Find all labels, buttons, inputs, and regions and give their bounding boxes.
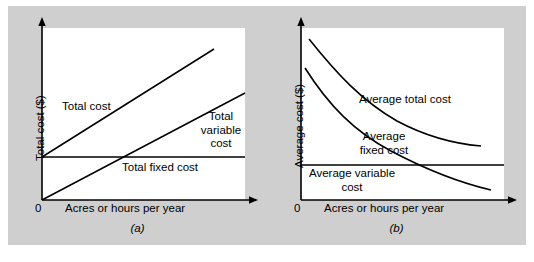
average-fixed-cost-label-line2: fixed cost xyxy=(344,144,424,158)
average-variable-cost-label-line1: Average variable xyxy=(304,167,400,181)
average-variable-cost-label-line2: cost xyxy=(304,181,400,195)
panel-b: Average cost ($) 0 Acres or hours per ye… xyxy=(267,6,526,245)
average-fixed-cost-label-line1: Average xyxy=(344,130,424,144)
panel-a-origin-label: 0 xyxy=(35,202,41,214)
panel-a-x-axis-label: Acres or hours per year xyxy=(65,202,185,214)
panel-a-y-axis-label: Total cost ($) xyxy=(34,95,46,161)
panel-b-caption: (b) xyxy=(267,222,526,234)
average-fixed-cost-label: Average fixed cost xyxy=(344,130,424,157)
total-variable-cost-label: Total variable cost xyxy=(196,110,246,151)
total-variable-cost-label-line2: variable xyxy=(196,124,246,138)
total-fixed-cost-label: Total fixed cost xyxy=(122,161,198,175)
panel-b-y-axis-label: Average cost ($) xyxy=(293,84,305,168)
total-variable-cost-label-line1: Total xyxy=(196,110,246,124)
panel-b-x-axis-label: Acres or hours per year xyxy=(324,202,444,214)
panel-a: Total cost ($) 0 Acres or hours per year… xyxy=(8,6,267,245)
average-variable-cost-label: Average variable cost xyxy=(304,167,400,194)
average-total-cost-label: Average total cost xyxy=(359,93,451,107)
cost-curves-figure: Total cost ($) 0 Acres or hours per year… xyxy=(0,0,534,262)
panel-b-origin-label: 0 xyxy=(294,202,300,214)
total-variable-cost-label-line3: cost xyxy=(196,137,246,151)
panel-a-caption: (a) xyxy=(8,222,267,234)
total-cost-label: Total cost xyxy=(62,100,111,114)
